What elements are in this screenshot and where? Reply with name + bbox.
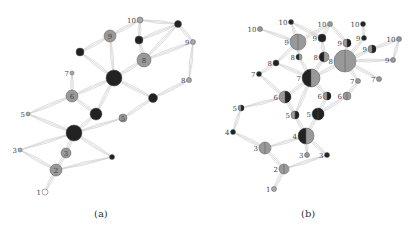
svg-text:2: 2 (274, 166, 278, 174)
svg-text:10: 10 (279, 19, 288, 27)
svg-text:10: 10 (127, 17, 136, 25)
graph-node: 8 (268, 60, 279, 68)
caption-b: (b) (301, 208, 315, 219)
svg-text:8: 8 (314, 54, 318, 62)
svg-text:3: 3 (13, 147, 17, 155)
graph-node: 6 (338, 92, 351, 101)
graph-node: 8 (314, 52, 329, 62)
graph-node: 5 (233, 105, 244, 113)
svg-text:6: 6 (274, 94, 279, 102)
graph-node: 2 (50, 164, 62, 176)
svg-text:7: 7 (251, 71, 255, 79)
svg-text:3: 3 (299, 152, 303, 160)
graph-node: 10 (248, 26, 263, 34)
graph-node (110, 155, 115, 160)
svg-text:5: 5 (233, 105, 237, 113)
svg-text:3: 3 (64, 150, 68, 158)
graph-panel-b: 1233344555666777788889999991010101010 (225, 19, 401, 194)
graph-node: 6 (318, 92, 331, 101)
svg-text:10: 10 (351, 21, 360, 29)
edge (20, 133, 74, 150)
graph-node: 1 (266, 186, 276, 194)
graph-node (76, 48, 84, 56)
graph-node (175, 21, 182, 28)
svg-text:6: 6 (70, 93, 75, 101)
graph-node: 9 (338, 39, 351, 48)
caption-a: (a) (94, 208, 108, 219)
graph-node: 3 (254, 142, 271, 154)
svg-text:7: 7 (350, 78, 354, 86)
svg-text:5: 5 (121, 115, 125, 123)
svg-text:8: 8 (329, 58, 333, 66)
graph-node (149, 94, 158, 103)
edge (56, 157, 112, 170)
svg-text:2: 2 (54, 167, 58, 175)
svg-text:1: 1 (37, 189, 41, 197)
svg-text:10: 10 (248, 26, 257, 34)
svg-text:9: 9 (363, 46, 367, 54)
svg-text:7: 7 (297, 75, 301, 83)
svg-text:6: 6 (318, 93, 323, 101)
svg-text:9: 9 (285, 39, 289, 47)
graph-node: 4 (225, 129, 235, 137)
graph-node: 7 (251, 71, 261, 79)
graph-node: 5 (119, 114, 127, 123)
graph-node: 9 (285, 34, 306, 50)
svg-text:5: 5 (21, 111, 25, 119)
svg-text:10: 10 (387, 36, 396, 44)
svg-text:8: 8 (142, 57, 146, 65)
graph-node: 1 (37, 189, 48, 197)
edge (241, 97, 285, 108)
graph-node: 2 (274, 164, 289, 174)
graph-panel-a: 12335567889910 (13, 17, 196, 197)
edge (123, 98, 153, 118)
graph-node: 6 (66, 90, 78, 102)
graph-node: 9 (363, 45, 376, 54)
svg-text:5: 5 (307, 111, 311, 119)
graph-node: 3 (299, 152, 309, 160)
svg-text:1: 1 (266, 186, 270, 194)
svg-text:10: 10 (318, 21, 327, 29)
svg-text:7: 7 (371, 76, 375, 84)
graph-node: 4 (293, 128, 314, 144)
svg-text:8: 8 (181, 77, 185, 85)
graph-node: 3 (61, 148, 71, 158)
graph-node: 5 (21, 111, 30, 119)
figure: 12335567889910 1233344555666777788889999… (0, 0, 417, 236)
svg-text:9: 9 (185, 39, 189, 47)
graph-node: 5 (286, 111, 299, 120)
svg-text:9: 9 (385, 57, 389, 65)
graph-node: 5 (307, 108, 324, 120)
svg-text:4: 4 (293, 133, 298, 141)
svg-text:8: 8 (268, 60, 272, 68)
graph-node: 6 (274, 91, 291, 103)
graph-node: 9 (104, 30, 116, 42)
edge (28, 96, 72, 114)
graph-node (66, 125, 82, 141)
svg-text:9: 9 (356, 35, 360, 43)
graph-node (90, 108, 102, 120)
graph-node: 8 (181, 77, 191, 85)
svg-text:7: 7 (65, 70, 69, 78)
graph-node: 10 (318, 21, 333, 29)
svg-text:4: 4 (225, 129, 230, 137)
graph-node: 10 (387, 36, 402, 44)
graph-node (106, 70, 122, 86)
svg-text:5: 5 (286, 112, 290, 120)
graph-node: 9 (313, 34, 326, 43)
graph-node (135, 36, 143, 44)
svg-text:3: 3 (319, 152, 323, 160)
svg-text:3: 3 (254, 145, 258, 153)
svg-text:9: 9 (338, 40, 342, 48)
svg-text:8: 8 (291, 54, 295, 62)
graph-node: 3 (13, 147, 22, 155)
svg-text:9: 9 (313, 35, 317, 43)
svg-text:6: 6 (338, 93, 343, 101)
svg-text:9: 9 (108, 33, 112, 41)
graph-node: 8 (137, 53, 151, 67)
